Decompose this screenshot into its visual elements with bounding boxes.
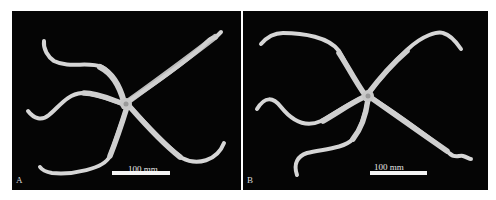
scale-bar-a — [112, 171, 170, 175]
panel-label-a: A — [16, 175, 23, 185]
figure: A 100 mm — [0, 0, 496, 200]
specimen-a-image — [12, 11, 241, 190]
specimen-b-image — [243, 11, 488, 190]
scale-bar-b — [370, 171, 427, 175]
caption-area — [0, 192, 496, 200]
panel-label-b: B — [247, 175, 253, 185]
panel-a: A 100 mm — [12, 11, 241, 190]
panel-b: B 100 mm — [243, 11, 488, 190]
